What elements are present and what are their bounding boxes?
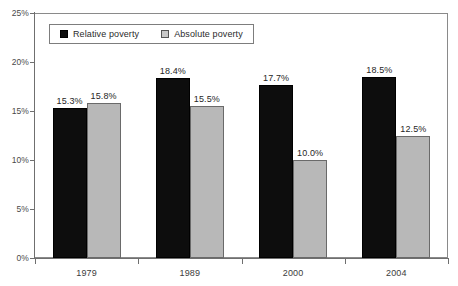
x-tick-mark [138, 259, 139, 264]
x-axis-label-1979: 1979 [57, 268, 117, 278]
legend-item-absolute-poverty: Absolute poverty [161, 29, 243, 39]
legend-swatch-relative-icon [60, 30, 68, 38]
bar-value-label: 17.7% [253, 73, 299, 83]
y-tick-label: 25% [12, 8, 29, 18]
bar-value-label: 10.0% [287, 148, 333, 158]
chart-legend: Relative poverty Absolute poverty [49, 24, 254, 44]
y-tick-20: 20% [0, 57, 29, 67]
legend-label-relative: Relative poverty [73, 29, 139, 39]
bar-value-label: 15.8% [81, 91, 127, 101]
x-axis-label-2000: 2000 [263, 268, 323, 278]
x-tick-mark [448, 259, 449, 264]
bar-1979-relative [53, 108, 87, 258]
y-tick-mark [30, 111, 35, 112]
y-tick-label: 20% [12, 57, 29, 67]
bar-value-label: 12.5% [390, 124, 436, 134]
x-axis-label-1989: 1989 [160, 268, 220, 278]
x-tick-mark [35, 259, 36, 264]
y-tick-mark [30, 13, 35, 14]
y-tick-mark [30, 209, 35, 210]
y-tick-10: 10% [0, 155, 29, 165]
bar-2000-absolute [293, 160, 327, 258]
bar-2004-relative [362, 77, 396, 258]
bar-2004-absolute [396, 136, 430, 259]
y-tick-label: 10% [12, 155, 29, 165]
y-tick-mark [30, 62, 35, 63]
y-tick-label: 0% [17, 253, 30, 263]
y-tick-15: 15% [0, 106, 29, 116]
y-tick-label: 15% [12, 106, 29, 116]
y-tick-mark [30, 160, 35, 161]
bar-1979-absolute [87, 103, 121, 258]
bar-2000-relative [259, 85, 293, 258]
y-axis-line [34, 12, 35, 259]
bar-1989-relative [156, 78, 190, 258]
bar-1989-absolute [190, 106, 224, 258]
chart-page: 0%5%10%15%20%25% 1979198920002004 15.3%1… [0, 0, 458, 286]
y-tick-0: 0% [0, 253, 29, 263]
legend-swatch-absolute-icon [161, 30, 169, 38]
y-tick-5: 5% [0, 204, 29, 214]
legend-label-absolute: Absolute poverty [174, 29, 243, 39]
bar-value-label: 18.4% [150, 66, 196, 76]
x-tick-mark [345, 259, 346, 264]
x-axis-label-2004: 2004 [366, 268, 426, 278]
bar-value-label: 18.5% [356, 65, 402, 75]
y-tick-25: 25% [0, 8, 29, 18]
x-tick-mark [242, 259, 243, 264]
legend-item-relative-poverty: Relative poverty [60, 29, 139, 39]
bar-value-label: 15.5% [184, 94, 230, 104]
y-tick-label: 5% [17, 204, 30, 214]
